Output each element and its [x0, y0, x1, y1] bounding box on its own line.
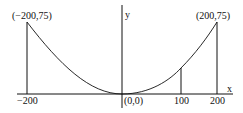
point-label-neg200-75: (−200,75) — [12, 10, 52, 22]
point-label-200-75: (200,75) — [196, 10, 230, 22]
parabola-diagram: (−200,75) (200,75) y x −200 (0,0) 100 20… — [0, 0, 243, 113]
y-axis-label: y — [125, 9, 130, 20]
tick-label-200: 200 — [210, 95, 225, 106]
x-axis-label: x — [227, 83, 232, 94]
tick-label-100: 100 — [174, 95, 189, 106]
tick-label-neg200: −200 — [17, 95, 38, 106]
origin-label: (0,0) — [124, 95, 143, 107]
